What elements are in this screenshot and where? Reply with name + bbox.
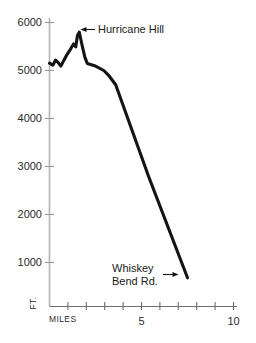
y-tick-label-2000: 2000 [18,208,42,220]
whiskey-bend-label-line1: Whiskey [112,262,154,274]
whiskey-bend-arrow-icon [173,272,179,277]
hurricane-hill-arrow-icon [81,27,87,32]
hurricane-hill-label: Hurricane Hill [98,23,164,35]
annotation-hurricane-hill: Hurricane Hill [81,23,165,35]
y-tick-label-3000: 3000 [18,160,42,172]
x-tick-label-5: 5 [138,315,144,327]
whiskey-bend-label-line2: Bend Rd. [112,275,158,287]
x-tick-label-10: 10 [227,315,239,327]
y-tick-label-4000: 4000 [18,112,42,124]
annotation-whiskey-bend-rd: Whiskey Bend Rd. [112,262,179,287]
x-axis-tick-labels: 5 10 [138,315,239,327]
y-tick-label-6000: 6000 [18,16,42,28]
y-axis-tick-labels: 6000 5000 4000 3000 2000 1000 [18,16,42,268]
y-tick-label-5000: 5000 [18,64,42,76]
y-tick-label-1000: 1000 [18,256,42,268]
x-axis-name: MILES [49,314,77,324]
elevation-profile-chart: 6000 5000 4000 3000 2000 1000 5 10 FT. [0,0,256,343]
y-axis-name: FT. [28,296,38,309]
elevation-profile-line [50,32,188,278]
chart-canvas: 6000 5000 4000 3000 2000 1000 5 10 FT. [0,0,256,343]
